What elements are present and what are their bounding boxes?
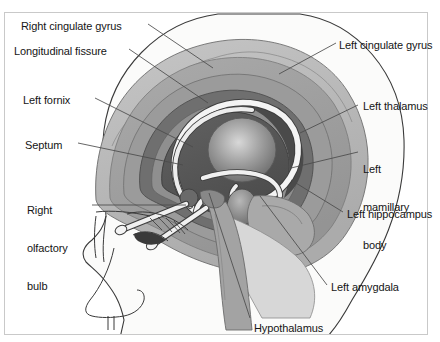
anatomy-figure: Right cingulate gyrus Longitudinal fissu… [0,0,440,342]
label-left-mamillary-body-line1: Left [363,163,409,176]
label-left-amygdala: Left amygdala [331,281,399,294]
label-septum: Septum [25,139,62,152]
label-hypothalamus: Hypothalamus [254,322,323,335]
label-left-fornix: Left fornix [23,94,70,107]
label-left-thalamus: Left thalamus [363,100,428,113]
label-right-olfactory-bulb-line2: olfactory [27,242,68,255]
label-right-olfactory-bulb-line1: Right [27,204,68,217]
label-right-cingulate-gyrus: Right cingulate gyrus [21,20,122,33]
label-right-olfactory-bulb: Right olfactory bulb [27,179,68,318]
label-longitudinal-fissure: Longitudinal fissure [14,45,107,58]
label-right-olfactory-bulb-line3: bulb [27,280,68,293]
label-left-hippocampus: Left hippocampus [347,208,432,221]
label-left-mamillary-body-line3: body [363,239,409,252]
label-left-cingulate-gyrus: Left cingulate gyrus [339,39,432,52]
